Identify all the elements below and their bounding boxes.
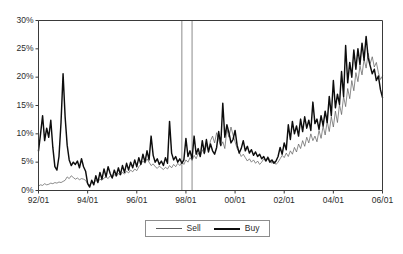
x-tick-label: 06/01 bbox=[372, 195, 394, 205]
chart-legend: Sell Buy bbox=[145, 220, 270, 237]
chart-container: 0%5%10%15%20%25%30% 92/0194/0196/0198/01… bbox=[0, 0, 403, 254]
legend-swatch-sell-icon bbox=[156, 228, 182, 229]
y-tick-label: 5% bbox=[21, 156, 34, 166]
x-tick-label: 00/01 bbox=[224, 195, 246, 205]
x-tick-label: 92/01 bbox=[28, 195, 50, 205]
y-tick-label: 10% bbox=[16, 128, 33, 138]
legend-item-sell: Sell bbox=[156, 224, 201, 233]
y-tick-label: 20% bbox=[16, 71, 33, 81]
y-tick-label: 15% bbox=[16, 100, 33, 110]
y-axis-tick-labels: 0%5%10%15%20%25%30% bbox=[16, 15, 33, 195]
series-line-sell bbox=[39, 53, 383, 186]
x-tick-label: 98/01 bbox=[175, 195, 197, 205]
x-axis-tick-labels: 92/0194/0196/0198/0100/0102/0104/0106/01 bbox=[28, 195, 394, 205]
y-tick-label: 25% bbox=[16, 43, 33, 53]
legend-swatch-buy-icon bbox=[214, 228, 240, 230]
legend-label-sell: Sell bbox=[187, 224, 201, 233]
y-tick-label: 0% bbox=[21, 185, 34, 195]
x-tick-label: 94/01 bbox=[77, 195, 99, 205]
y-tick-label: 30% bbox=[16, 15, 33, 25]
legend-label-buy: Buy bbox=[245, 224, 260, 233]
x-tick-label: 04/01 bbox=[323, 195, 345, 205]
x-tick-label: 96/01 bbox=[126, 195, 148, 205]
vertical-marker-lines bbox=[182, 21, 192, 191]
x-tick-label: 02/01 bbox=[274, 195, 296, 205]
series-line-buy bbox=[39, 36, 383, 187]
line-chart-plot: 0%5%10%15%20%25%30% 92/0194/0196/0198/01… bbox=[0, 0, 403, 254]
legend-item-buy: Buy bbox=[214, 224, 260, 233]
